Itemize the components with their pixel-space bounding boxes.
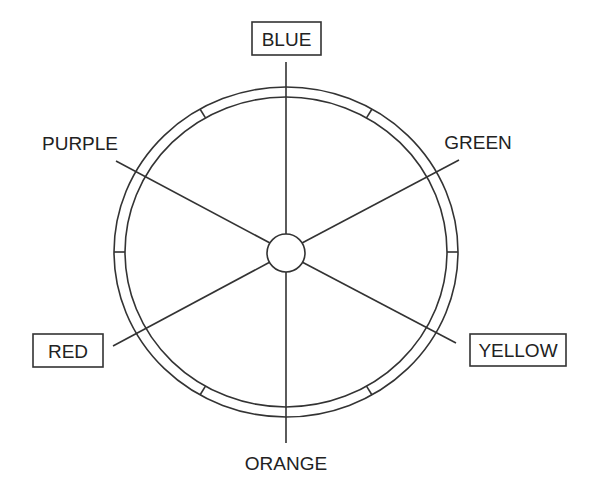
ring-tick [200,386,206,395]
spoke-purple [116,161,270,243]
label-green: GREEN [444,132,512,153]
label-yellow: YELLOW [478,340,557,361]
label-blue: BLUE [262,29,312,50]
spoke-yellow [302,262,456,343]
center-hub [267,234,305,272]
label-purple: PURPLE [42,133,118,154]
spoke-green [302,160,459,243]
label-orange: ORANGE [245,453,327,474]
ring-tick [367,109,373,118]
ring-tick [367,386,373,395]
label-red: RED [48,341,88,362]
ring-tick [200,109,206,118]
color-wheel-diagram: BLUE GREEN YELLOW ORANGE RED PURPLE [0,0,592,498]
